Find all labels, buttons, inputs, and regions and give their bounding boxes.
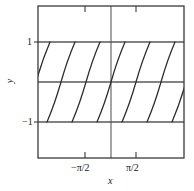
- y-axis-title: y: [5, 79, 15, 83]
- y-tick-label-neg1: −1: [22, 117, 33, 127]
- x-axis-title: x: [108, 176, 112, 186]
- x-tick-label-poshalfpi: π/2: [126, 163, 139, 173]
- y-tick-label-1: 1: [27, 37, 32, 47]
- plot-canvas: [0, 0, 194, 191]
- x-tick-label-neghalfpi: −π/2: [71, 163, 89, 173]
- figure-plot-area: 1 −1 −π/2 π/2 y x: [0, 0, 194, 191]
